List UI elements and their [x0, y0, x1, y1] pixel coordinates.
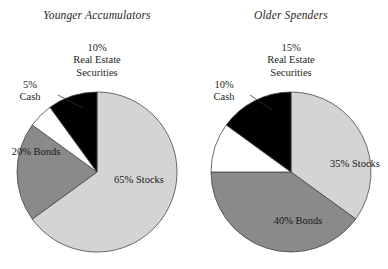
slice-percent: 35% — [330, 158, 349, 169]
callout-line-1: Cash — [4, 91, 56, 103]
callout-line-1: Cash — [196, 91, 252, 103]
slice-label-bonds-right: 40% Bonds — [270, 215, 326, 227]
slice-label-bonds-left: 20% Bonds — [10, 146, 62, 158]
slice-label-stocks-right: 35% Stocks — [327, 158, 383, 170]
slice-percent: 65% — [114, 174, 133, 185]
slice-percent: 20% — [12, 146, 31, 157]
slice-label-stocks-left: 65% Stocks — [110, 174, 168, 186]
pie-chart-older-spenders — [194, 0, 388, 269]
callout-percent: 10% — [196, 79, 252, 91]
callout-line-2: Securities — [239, 67, 343, 79]
callout-line-2: Securities — [47, 67, 147, 79]
slice-name: Bonds — [34, 146, 61, 157]
callout-line-1: Real Estate — [239, 54, 343, 66]
slice-percent: 40% — [274, 215, 293, 226]
callout-percent: 15% — [239, 42, 343, 54]
callout-real-estate-securities-right: 15% Real Estate Securities — [239, 42, 343, 79]
chart-panel-younger-accumulators: Younger Accumulators 10% Real Estate Sec… — [0, 0, 194, 269]
slice-name: Stocks — [352, 158, 380, 169]
callout-real-estate-securities-left: 10% Real Estate Securities — [47, 42, 147, 79]
callout-line-1: Real Estate — [47, 54, 147, 66]
chart-panel-older-spenders: Older Spenders 15% Real Estate Securitie… — [194, 0, 388, 269]
asset-allocation-pie-figure: Younger Accumulators 10% Real Estate Sec… — [0, 0, 388, 269]
callout-cash-left: 5% Cash — [4, 79, 56, 104]
slice-name: Bonds — [296, 215, 323, 226]
callout-percent: 10% — [47, 42, 147, 54]
slice-name: Stocks — [136, 174, 164, 185]
callout-percent: 5% — [4, 79, 56, 91]
pie-chart-younger-accumulators — [0, 0, 194, 269]
callout-cash-right: 10% Cash — [196, 79, 252, 104]
